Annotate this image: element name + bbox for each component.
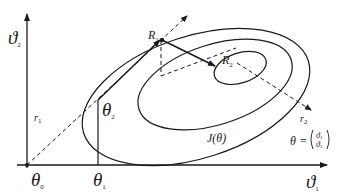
theta1-label: θ1 — [93, 169, 106, 191]
theta-vector-definition: θ = ϑ1 ϑ2 — [290, 130, 329, 149]
step-theta2-to-R1 — [98, 40, 160, 100]
svg-text:θ: θ — [290, 134, 296, 148]
r2-dashed-line — [237, 63, 311, 110]
optimization-contour-diagram: ϑ2 ϑ1 θ0 θ1 θ2 R1 R2 r1 r2 J(θ) θ = ϑ1 ϑ… — [0, 0, 344, 193]
svg-text:ϑ1: ϑ1 — [316, 131, 323, 140]
theta2-label: θ2 — [102, 99, 115, 121]
svg-text:=: = — [300, 134, 307, 148]
outer-contour — [65, 3, 327, 192]
origin-label: θ0 — [31, 169, 44, 191]
R1-label: R1 — [147, 28, 159, 44]
r2-label: r2 — [300, 113, 308, 126]
r1-label: r1 — [34, 112, 42, 125]
origin-point — [25, 163, 29, 167]
cost-contours — [65, 3, 327, 192]
R1-point — [160, 38, 164, 42]
y-axis-label: ϑ2 — [8, 27, 21, 49]
cost-function-label: J(θ) — [207, 131, 226, 145]
x-axis-label: ϑ1 — [306, 171, 319, 193]
inner-contour — [210, 45, 271, 90]
svg-text:ϑ2: ϑ2 — [316, 140, 323, 149]
